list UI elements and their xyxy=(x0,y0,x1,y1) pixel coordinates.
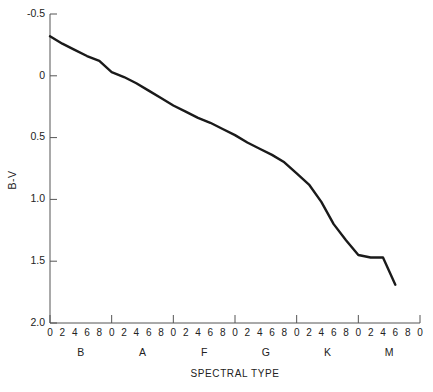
x-tick-label: 0 xyxy=(232,327,238,338)
x-tick-label: 6 xyxy=(84,327,90,338)
x-tick-label: 4 xyxy=(195,327,201,338)
x-tick-label: 2 xyxy=(183,327,189,338)
x-tick-label: 8 xyxy=(343,327,349,338)
x-tick-label: 8 xyxy=(220,327,226,338)
x-tick-label: 6 xyxy=(208,327,214,338)
y-tick-label: 1.0 xyxy=(30,192,45,204)
x-tick-label: 6 xyxy=(269,327,275,338)
spectral-class-label: K xyxy=(324,346,331,358)
y-axis-title: B-V xyxy=(6,170,18,189)
x-tick-marks xyxy=(50,315,420,323)
color-index-curve xyxy=(50,36,395,284)
x-tick-label: 4 xyxy=(319,327,325,338)
x-tick-label: 8 xyxy=(158,327,164,338)
spectral-type-color-index-chart: -0.500.51.01.52.0 0246802468024680246802… xyxy=(0,0,433,392)
x-tick-label: 0 xyxy=(109,327,115,338)
x-tick-label: 4 xyxy=(134,327,140,338)
spectral-class-label: M xyxy=(385,346,394,358)
x-tick-label: 8 xyxy=(405,327,411,338)
spectral-class-label: F xyxy=(201,346,207,358)
chart-canvas: -0.500.51.01.52.0 0246802468024680246802… xyxy=(0,0,433,392)
x-tick-label: 0 xyxy=(294,327,300,338)
x-tick-label: 4 xyxy=(72,327,78,338)
y-tick-label: -0.5 xyxy=(27,7,45,19)
y-tick-label: 0 xyxy=(39,69,45,81)
spectral-class-label: B xyxy=(77,346,84,358)
x-axis-title: SPECTRAL TYPE xyxy=(191,368,280,379)
x-tick-labels: 0246802468024680246802468024680 xyxy=(47,327,423,338)
spectral-class-label: G xyxy=(262,346,270,358)
x-tick-label: 2 xyxy=(60,327,66,338)
x-tick-label: 2 xyxy=(245,327,251,338)
x-tick-label: 0 xyxy=(171,327,177,338)
y-tick-labels: -0.500.51.01.52.0 xyxy=(27,7,45,328)
x-tick-label: 8 xyxy=(97,327,103,338)
y-tick-label: 1.5 xyxy=(30,254,45,266)
x-tick-label: 6 xyxy=(393,327,399,338)
x-tick-label: 6 xyxy=(331,327,337,338)
x-tick-label: 2 xyxy=(368,327,374,338)
x-tick-label: 4 xyxy=(257,327,263,338)
x-tick-label: 0 xyxy=(417,327,423,338)
x-tick-label: 4 xyxy=(380,327,386,338)
y-tick-marks xyxy=(50,14,57,323)
x-tick-label: 8 xyxy=(282,327,288,338)
y-axis: -0.500.51.01.52.0 xyxy=(27,7,57,328)
x-tick-label: 0 xyxy=(47,327,53,338)
x-tick-label: 0 xyxy=(356,327,362,338)
y-tick-label: 0.5 xyxy=(30,130,45,142)
x-tick-label: 6 xyxy=(146,327,152,338)
x-axis: 0246802468024680246802468024680 BAFGKM xyxy=(47,315,423,358)
x-tick-label: 2 xyxy=(306,327,312,338)
x-tick-label: 2 xyxy=(121,327,127,338)
spectral-class-label: A xyxy=(139,346,146,358)
y-tick-label: 2.0 xyxy=(30,316,45,328)
spectral-class-labels: BAFGKM xyxy=(77,346,393,358)
